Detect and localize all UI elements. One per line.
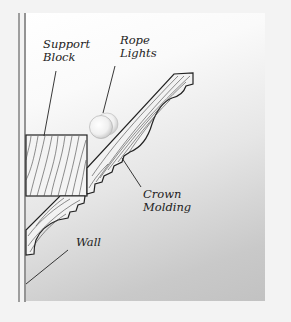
support-block-label-line2: Block [43, 51, 90, 64]
support-block [26, 135, 87, 196]
wall-lines [19, 13, 25, 302]
crown-molding-label: Crown Molding [143, 188, 191, 214]
wall-leader [26, 250, 68, 284]
wall-label: Wall [76, 236, 101, 249]
rope-lights-label-line2: Lights [120, 47, 157, 60]
rope-lights-leader [103, 66, 115, 113]
rope-lights-label: Rope Lights [120, 34, 157, 60]
crown-molding-leader [122, 158, 141, 187]
support-block-label: Support Block [43, 38, 90, 64]
crown-molding-label-line2: Molding [143, 201, 191, 214]
rope-lights [90, 113, 119, 139]
support-block-leader [44, 71, 56, 136]
